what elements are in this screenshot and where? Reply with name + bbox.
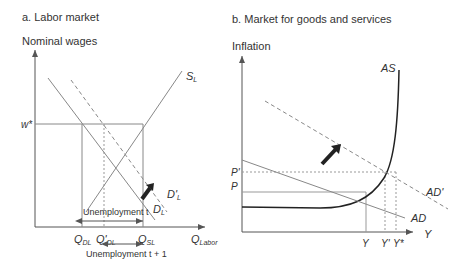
demand-shift-label: D'L <box>167 188 181 201</box>
p-label: P <box>231 181 238 192</box>
panel-a-y-axis-label: Nominal wages <box>22 35 98 47</box>
diagram-canvas: a. Labor market Nominal wages w* SL DL D… <box>0 0 465 267</box>
supply-label: SL <box>186 70 197 83</box>
wage-label: w* <box>21 119 33 130</box>
panel-b-title: b. Market for goods and services <box>232 13 392 25</box>
panel-a-title: a. Labor market <box>22 11 99 23</box>
p-prime-label: P' <box>231 167 241 178</box>
panel-b-x-axis-label: Y <box>424 228 432 240</box>
demand-label: DL <box>153 203 165 216</box>
ad-shifted-curve <box>265 101 448 209</box>
labor-demand-curve <box>48 78 155 220</box>
ad-label: AD <box>410 212 426 224</box>
unemployment-t1-label: Unemployment t + 1 <box>86 249 167 259</box>
labor-demand-shifted-curve <box>71 80 167 212</box>
tick-y: Y <box>362 238 370 249</box>
unemployment-t-label: Unemployment t <box>83 207 149 217</box>
as-curve <box>242 70 399 208</box>
tick-y-star: Y* <box>393 238 405 249</box>
goods-market-panel: b. Market for goods and services Inflati… <box>231 13 448 249</box>
labor-market-panel: a. Labor market Nominal wages w* SL DL D… <box>21 11 218 259</box>
ad-shift-arrow <box>322 149 336 164</box>
tick-qdl: QDL <box>74 233 92 246</box>
as-label: AS <box>380 62 396 74</box>
ad-shift-label: AD' <box>425 186 444 198</box>
panel-a-x-axis-label: QLabor <box>191 233 218 246</box>
tick-y-prime: Y' <box>381 238 391 249</box>
panel-b-y-axis-label: Inflation <box>232 40 271 52</box>
